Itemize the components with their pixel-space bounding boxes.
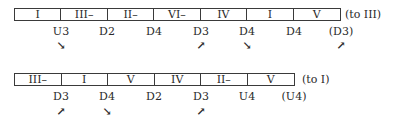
- arrow-down-right-icon: ↘: [102, 106, 111, 117]
- chord-cell: II–: [201, 74, 248, 85]
- target-label: (to I): [302, 73, 329, 86]
- arrow-down-right-icon: ↘: [56, 40, 65, 51]
- arrow-down-right-icon: ↘: [242, 40, 251, 51]
- chord-cell: V: [248, 74, 295, 85]
- chord-cell: I: [247, 9, 293, 20]
- motion-label: U4: [239, 91, 255, 103]
- chord-box-2: III– I V IV II– V: [14, 73, 295, 86]
- chord-box-1: I III– II– VI– IV I V: [14, 8, 341, 21]
- motion-label: D2: [99, 26, 115, 38]
- arrow-up-right-icon: ↗: [196, 40, 205, 51]
- motion-label: U3: [53, 26, 69, 38]
- motion-label: D4: [99, 91, 115, 103]
- chord-cell: VI–: [154, 9, 200, 20]
- chord-cell: V: [294, 9, 340, 20]
- motion-label: D4: [239, 26, 255, 38]
- motion-label: (D3): [329, 26, 353, 38]
- chord-cell: III–: [61, 9, 107, 20]
- chord-cell: I: [62, 74, 109, 85]
- chord-cell: IV: [155, 74, 202, 85]
- chord-cell: I: [15, 9, 61, 20]
- motion-label: D4: [286, 26, 302, 38]
- motion-label: D3: [53, 91, 69, 103]
- arrow-up-right-icon: ↗: [56, 106, 65, 117]
- chord-cell: III–: [15, 74, 62, 85]
- motion-label: (U4): [282, 91, 307, 103]
- target-label: (to III): [345, 8, 381, 21]
- chord-cell: V: [108, 74, 155, 85]
- motion-label: D4: [146, 26, 162, 38]
- motion-label: D3: [193, 26, 209, 38]
- arrow-up-right-icon: ↗: [196, 106, 205, 117]
- chord-cell: II–: [108, 9, 154, 20]
- chord-cell: IV: [201, 9, 247, 20]
- arrow-up-right-icon: ↗: [336, 40, 345, 51]
- motion-label: D3: [193, 91, 209, 103]
- motion-label: D2: [146, 91, 162, 103]
